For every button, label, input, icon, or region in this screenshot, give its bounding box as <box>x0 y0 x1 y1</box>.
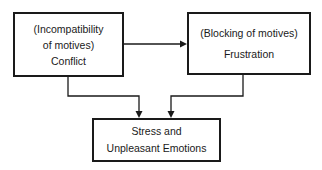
arrowhead-icon <box>168 111 175 118</box>
node-conflict-subtitle: (Incompatibility <box>33 21 103 37</box>
node-stress-line-2: Unpleasant Emotions <box>107 140 207 157</box>
node-conflict-subtitle-2: of motives) <box>43 37 94 53</box>
node-frustration-subtitle: (Blocking of motives) <box>200 23 297 44</box>
node-conflict: (Incompatibility of motives) Conflict <box>13 12 124 77</box>
edge-frustration-to-stress <box>171 75 243 112</box>
edge-conflict-to-stress <box>68 77 139 112</box>
node-stress: Stress and Unpleasant Emotions <box>92 118 221 162</box>
node-conflict-title: Conflict <box>51 53 86 69</box>
node-stress-line-1: Stress and <box>131 123 181 140</box>
node-frustration-title: Frustration <box>224 44 274 65</box>
node-frustration: (Blocking of motives) Frustration <box>187 12 311 75</box>
arrowhead-icon <box>180 41 187 48</box>
arrowhead-icon <box>136 111 143 118</box>
